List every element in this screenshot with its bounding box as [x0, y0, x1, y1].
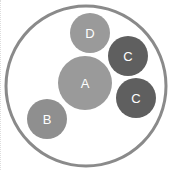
circle-b: B: [27, 99, 67, 139]
circle-c-lower-label: C: [131, 91, 140, 106]
circle-b-label: B: [43, 112, 52, 127]
circle-c-upper: C: [108, 36, 148, 76]
circle-a: A: [58, 56, 112, 110]
circle-a-label: A: [81, 76, 90, 91]
circle-d: D: [70, 13, 110, 53]
circle-d-label: D: [85, 26, 94, 41]
circle-diagram: A D C C B: [0, 0, 170, 170]
circle-c-upper-label: C: [123, 49, 132, 64]
circle-c-lower: C: [116, 78, 156, 118]
